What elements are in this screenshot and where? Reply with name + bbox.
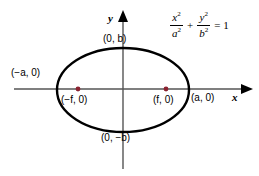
label-top-vertex: (0, b) [103, 34, 126, 44]
fraction-bar-x [170, 25, 183, 26]
label-bottom-vertex: (0, −b) [101, 133, 130, 143]
label-left-vertex: (−a, 0) [11, 68, 40, 78]
label-left-focus: (−f, 0) [61, 95, 87, 105]
left-focus-point [76, 87, 81, 92]
x-axis-arrow-icon [241, 84, 253, 94]
equation-plus-sign: + [187, 20, 193, 31]
y-axis-arrow-icon [118, 10, 128, 22]
equation-denominator-b: b2 [197, 27, 210, 40]
equation-fraction-x: x2 a2 [170, 11, 183, 39]
x-axis-label: x [232, 92, 238, 103]
fraction-bar-y [197, 25, 210, 26]
right-focus-point [164, 87, 169, 92]
equation-equals-one: = 1 [214, 20, 228, 31]
label-right-vertex: (a, 0) [191, 93, 214, 103]
ellipse-figure: y x (0, b) (0, −b) (−a, 0) (a, 0) (−f, 0… [0, 0, 259, 176]
ellipse-equation: x2 a2 + y2 b2 = 1 [168, 11, 229, 39]
y-axis-label: y [108, 13, 113, 24]
equation-fraction-y: y2 b2 [197, 11, 210, 39]
equation-numerator-x: x2 [170, 11, 182, 24]
equation-numerator-y: y2 [198, 11, 210, 24]
label-right-focus: (f, 0) [153, 95, 174, 105]
equation-denominator-a: a2 [170, 27, 183, 40]
